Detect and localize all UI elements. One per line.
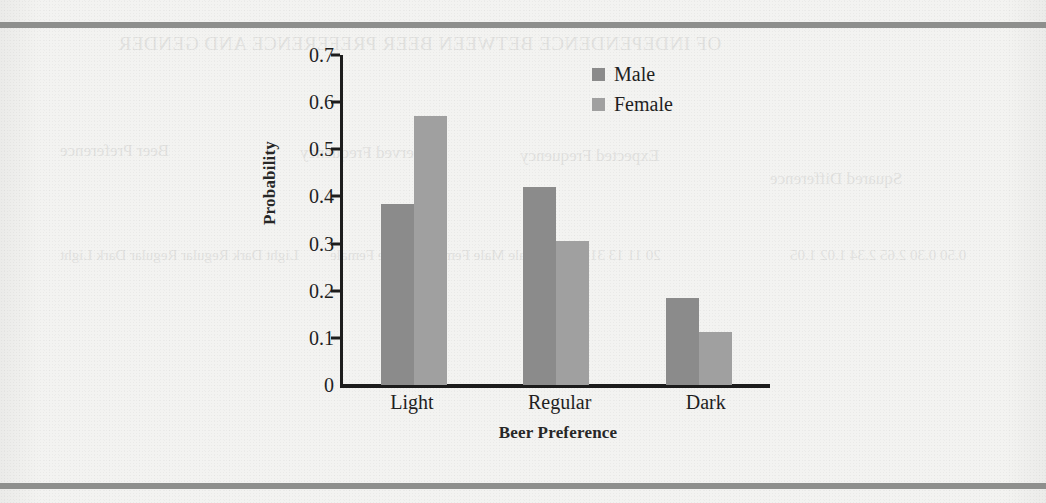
- page-rule-bottom: [0, 483, 1046, 489]
- bar-groups: [343, 55, 770, 385]
- x-axis-tick-label-dark: Dark: [686, 391, 726, 414]
- legend-label: Female: [614, 93, 673, 116]
- plot-area: [340, 55, 770, 385]
- bleed-through-col-a: Beer Preference: [60, 140, 169, 161]
- legend-item-female[interactable]: Female: [592, 93, 673, 116]
- bleed-through-title: OF INDEPENDENCE BETWEEN BEER PREFERENCE …: [118, 33, 721, 55]
- bar-light-male[interactable]: [381, 204, 414, 386]
- bar-group-regular: [523, 55, 589, 385]
- bleed-through-rows-d: 0.50 0.30 2.65 2.34 1.02 1.05: [790, 245, 966, 265]
- bar-regular-male[interactable]: [523, 187, 556, 385]
- bleed-through-col-d: Squared Difference: [770, 168, 902, 189]
- y-axis-tick-mark: [331, 54, 340, 57]
- y-axis-tick-mark: [331, 336, 340, 339]
- y-axis-tick-mark: [331, 289, 340, 292]
- y-axis-tick-label: 0: [324, 374, 334, 397]
- legend-label: Male: [614, 63, 655, 86]
- x-axis-tick-label-regular: Regular: [528, 391, 591, 414]
- bar-chart: Probability 0.70.60.50.40.30.20.10 Light…: [262, 55, 782, 455]
- chart-legend: MaleFemale: [592, 63, 673, 123]
- y-axis-tick-mark: [331, 101, 340, 104]
- y-axis-title: Probability: [260, 141, 280, 225]
- legend-swatch-icon: [592, 68, 605, 81]
- bar-regular-female[interactable]: [556, 241, 589, 385]
- y-axis-tick-mark: [331, 195, 340, 198]
- bar-dark-female[interactable]: [699, 332, 732, 385]
- x-axis-tick-label-light: Light: [390, 391, 433, 414]
- legend-item-male[interactable]: Male: [592, 63, 673, 86]
- y-axis-tick-labels: 0.70.60.50.40.30.20.10: [288, 55, 334, 385]
- bar-dark-male[interactable]: [666, 298, 699, 385]
- bar-light-female[interactable]: [414, 116, 447, 385]
- page-rule-top: [0, 22, 1046, 28]
- bar-group-light: [381, 55, 447, 385]
- legend-swatch-icon: [592, 98, 605, 111]
- x-axis-title: Beer Preference: [343, 423, 773, 443]
- y-axis-tick-mark: [331, 242, 340, 245]
- bar-group-dark: [666, 55, 732, 385]
- scanned-page: OF INDEPENDENCE BETWEEN BEER PREFERENCE …: [0, 0, 1046, 503]
- x-axis-tick-labels: LightRegularDark: [343, 391, 773, 414]
- y-axis-tick-mark: [331, 148, 340, 151]
